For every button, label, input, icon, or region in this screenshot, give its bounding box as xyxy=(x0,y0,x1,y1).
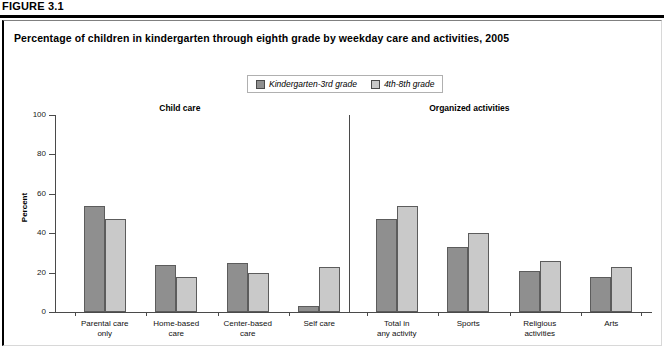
x-axis-line xyxy=(55,312,652,313)
legend-item-4th-8th-grade: 4th-8th grade xyxy=(371,79,435,89)
bar xyxy=(397,206,418,312)
x-axis-tick xyxy=(289,312,290,316)
figure-header: FIGURE 3.1 xyxy=(0,0,664,18)
section-header-child-care: Child care xyxy=(159,103,200,113)
y-axis-tick xyxy=(49,115,55,116)
legend-label-kindergarten-3rd-grade: Kindergarten-3rd grade xyxy=(269,79,357,89)
x-axis-label: Home-based care xyxy=(153,319,199,339)
x-axis-label: Religious activities xyxy=(523,319,556,339)
figure-number-label: FIGURE 3.1 xyxy=(2,0,64,14)
x-axis-tick xyxy=(218,312,219,316)
legend-swatch-icon xyxy=(256,80,265,89)
legend-label-4th-8th-grade: 4th-8th grade xyxy=(384,79,435,89)
x-axis-label: Self care xyxy=(303,319,335,329)
chart-title: Percentage of children in kindergarten t… xyxy=(14,32,509,44)
x-axis-tick xyxy=(581,312,582,316)
bar xyxy=(447,247,468,312)
section-divider xyxy=(349,115,350,312)
y-axis-tick xyxy=(49,312,55,313)
bar xyxy=(590,277,611,312)
y-axis-line xyxy=(55,115,56,312)
x-axis-tick xyxy=(146,312,147,316)
figure-root: FIGURE 3.1 Percentage of children in kin… xyxy=(0,0,664,348)
y-axis-tick xyxy=(49,194,55,195)
plot-area: Percent 020406080100Child careOrganized … xyxy=(44,115,652,312)
y-axis-tick-label: 0 xyxy=(20,307,46,316)
bar xyxy=(84,206,105,312)
x-axis-tick xyxy=(510,312,511,316)
legend-item-kindergarten-3rd-grade: Kindergarten-3rd grade xyxy=(256,79,357,89)
y-axis-tick-label: 80 xyxy=(20,149,46,158)
section-header-organized-activities: Organized activities xyxy=(429,103,509,113)
bar xyxy=(176,277,197,312)
bar xyxy=(376,219,397,312)
bar xyxy=(227,263,248,312)
y-axis-tick xyxy=(49,273,55,274)
y-axis-tick xyxy=(49,154,55,155)
x-axis-label: Total in any activity xyxy=(377,319,417,339)
chart-legend: Kindergarten-3rd grade 4th-8th grade xyxy=(247,75,443,93)
bar xyxy=(298,306,319,312)
y-axis-tick-label: 60 xyxy=(20,189,46,198)
x-axis-tick xyxy=(641,312,642,316)
bar xyxy=(540,261,561,312)
bar xyxy=(519,271,540,312)
figure-panel: Percentage of children in kindergarten t… xyxy=(2,20,662,346)
y-axis-tick-label: 40 xyxy=(20,228,46,237)
x-axis-label: Parental care only xyxy=(81,319,129,339)
y-axis-tick xyxy=(49,233,55,234)
bar xyxy=(468,233,489,312)
x-axis-label: Arts xyxy=(604,319,618,329)
legend-swatch-icon xyxy=(371,80,380,89)
x-axis-tick xyxy=(367,312,368,316)
y-axis-tick-label: 100 xyxy=(20,110,46,119)
x-axis-tick xyxy=(438,312,439,316)
x-axis-label: Center-based care xyxy=(224,319,272,339)
bar xyxy=(611,267,632,312)
bar xyxy=(105,219,126,312)
x-axis-label: Sports xyxy=(457,319,480,329)
x-axis-tick xyxy=(75,312,76,316)
bar xyxy=(248,273,269,312)
bar xyxy=(319,267,340,312)
y-axis-tick-label: 20 xyxy=(20,268,46,277)
bar xyxy=(155,265,176,312)
